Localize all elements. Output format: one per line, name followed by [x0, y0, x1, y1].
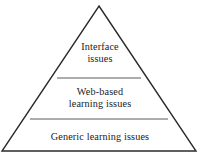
pyramid-diagram: Interface issues Web-based learning issu…: [0, 0, 200, 161]
pyramid-outline-graphic: [0, 0, 200, 161]
